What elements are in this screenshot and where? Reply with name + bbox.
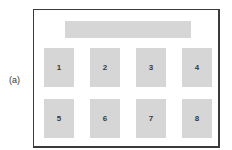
- figure-label: (a): [9, 75, 20, 85]
- box-5: 5: [44, 99, 74, 138]
- box-8: 8: [182, 99, 212, 138]
- page-frame: 1 2 3 4 5 6 7 8: [33, 9, 220, 148]
- box-1: 1: [44, 48, 74, 87]
- box-4: 4: [182, 48, 212, 87]
- box-2: 2: [90, 48, 120, 87]
- box-3: 3: [136, 48, 166, 87]
- box-7: 7: [136, 99, 166, 138]
- box-6: 6: [90, 99, 120, 138]
- header-bar: [65, 21, 191, 38]
